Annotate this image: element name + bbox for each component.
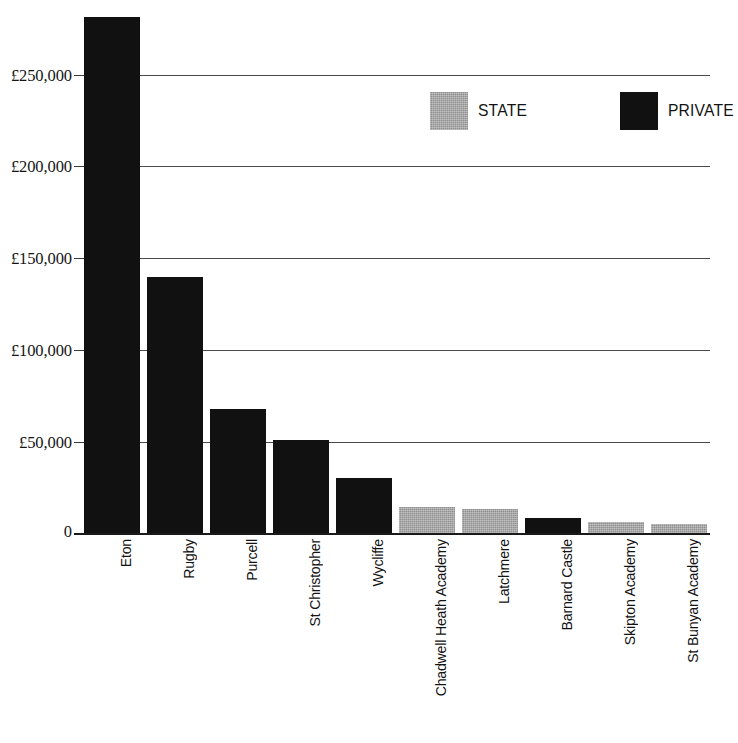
bar-st-christopher[interactable]	[273, 440, 329, 533]
legend-item-private[interactable]: PRIVATE	[620, 92, 738, 130]
bars	[84, 0, 710, 533]
bar-chadwell-heath-academy[interactable]	[399, 507, 455, 533]
x-axis-line	[74, 533, 710, 535]
x-axis-label-eton: Eton	[118, 539, 133, 569]
x-axis-label-barnard-castle: Barnard Castle	[559, 539, 574, 636]
x-axis-label-skipton-academy: Skipton Academy	[622, 539, 637, 652]
y-tick-250000	[74, 75, 84, 76]
x-axis-label-purcell: Purcell	[244, 539, 259, 583]
legend-swatch-private-icon	[620, 92, 658, 130]
x-axis-label-st-christopher: St Christopher	[307, 539, 322, 632]
x-axis-label-wycliffe: Wycliffe	[370, 539, 385, 590]
bar-barnard-castle[interactable]	[525, 518, 581, 533]
y-tick-50000	[74, 442, 84, 443]
bar-skipton-academy[interactable]	[588, 522, 644, 533]
x-axis-label-rugby: Rugby	[181, 539, 196, 581]
y-tick-150000	[74, 258, 84, 259]
legend-label-private: PRIVATE	[668, 101, 734, 121]
bar-purcell[interactable]	[210, 409, 266, 533]
x-axis-labels: Eton Rugby Purcell St Christopher Wyclif…	[84, 539, 710, 743]
y-axis-label-50000: £50,000	[0, 433, 72, 453]
x-axis-label-latchmere: Latchmere	[496, 539, 511, 608]
bar-eton[interactable]	[84, 17, 140, 533]
bar-st-bunyan-academy[interactable]	[651, 524, 707, 533]
legend-swatch-state-icon	[430, 92, 468, 130]
y-tick-200000	[74, 166, 84, 167]
bar-rugby[interactable]	[147, 277, 203, 533]
legend-label-state: STATE	[478, 101, 527, 121]
bar-wycliffe[interactable]	[336, 478, 392, 533]
y-axis-label-200000: £200,000	[0, 157, 72, 177]
legend-item-state[interactable]: STATE	[430, 92, 531, 130]
x-axis-label-st-bunyan-academy: St Bunyan Academy	[685, 539, 700, 671]
y-axis-label-100000: £100,000	[0, 341, 72, 361]
y-axis-label-250000: £250,000	[0, 66, 72, 86]
x-axis-label-chadwell-heath-academy: Chadwell Heath Academy	[433, 539, 448, 706]
y-axis-label-150000: £150,000	[0, 249, 72, 269]
bar-latchmere[interactable]	[462, 509, 518, 533]
y-tick-100000	[74, 350, 84, 351]
y-axis-label-0: 0	[0, 522, 72, 542]
y-axis-labels: £250,000 £200,000 £150,000 £100,000 £50,…	[0, 0, 72, 600]
